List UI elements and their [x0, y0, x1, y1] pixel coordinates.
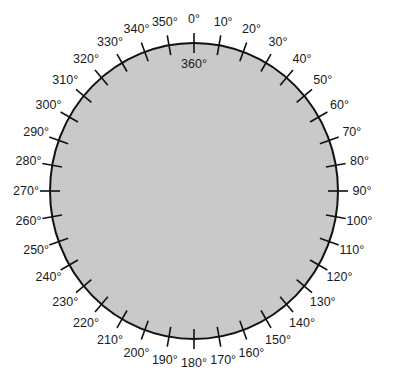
label-330: 330°	[97, 35, 123, 49]
label-350: 350°	[152, 15, 178, 29]
label-50: 50°	[313, 73, 332, 87]
label-70: 70°	[342, 125, 361, 139]
label-100: 100°	[347, 214, 373, 228]
degree-circle-diagram: 0°10°20°30°40°50°60°70°80°90°100°110°120…	[0, 0, 393, 388]
label-30: 30°	[269, 35, 288, 49]
label-40: 40°	[293, 52, 312, 66]
label-80: 80°	[350, 154, 369, 168]
label-200: 200°	[124, 346, 150, 360]
circle-disc	[50, 43, 338, 339]
label-340: 340°	[124, 22, 150, 36]
label-360: 360°	[181, 57, 207, 71]
label-150: 150°	[265, 333, 291, 347]
label-0: 0°	[188, 12, 200, 26]
label-110: 110°	[339, 243, 364, 257]
label-20: 20°	[242, 22, 261, 36]
label-60: 60°	[330, 98, 349, 112]
label-260: 260°	[16, 214, 42, 228]
label-300: 300°	[36, 98, 62, 112]
label-90: 90°	[353, 184, 372, 198]
label-290: 290°	[23, 125, 49, 139]
label-270: 270°	[13, 184, 39, 198]
label-250: 250°	[23, 243, 49, 257]
label-120: 120°	[327, 270, 353, 284]
label-280: 280°	[16, 154, 42, 168]
label-320: 320°	[73, 52, 99, 66]
label-210: 210°	[97, 333, 123, 347]
label-220: 220°	[73, 316, 99, 330]
label-170: 170°	[210, 353, 236, 367]
label-140: 140°	[289, 316, 315, 330]
label-180: 180°	[181, 356, 207, 370]
label-230: 230°	[52, 295, 78, 309]
label-310: 310°	[52, 73, 78, 87]
label-10: 10°	[214, 15, 233, 29]
label-190: 190°	[152, 353, 178, 367]
label-160: 160°	[239, 346, 265, 360]
label-130: 130°	[310, 295, 336, 309]
label-240: 240°	[36, 270, 62, 284]
